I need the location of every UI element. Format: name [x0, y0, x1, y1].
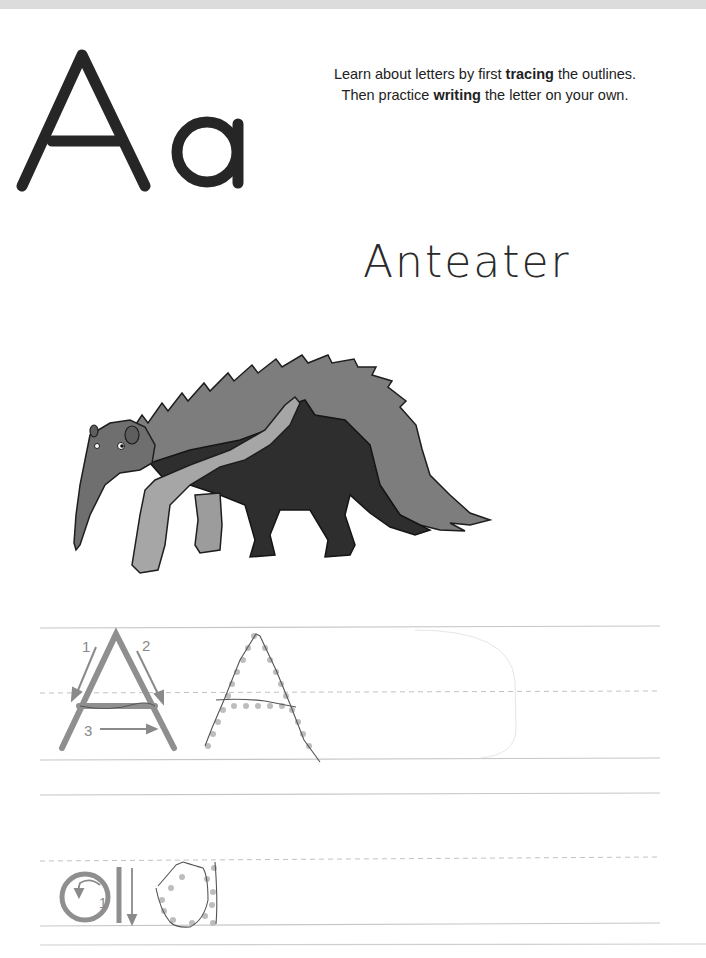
uppercase-a-glyph: [22, 55, 145, 186]
anteater-eye-far: [95, 444, 100, 449]
emphasis-tracing: tracing: [506, 66, 554, 82]
anteater-illustration: [70, 345, 500, 580]
anteater-pupil: [120, 444, 124, 448]
big-letters-aa: [0, 40, 260, 210]
dotted-uppercase-a: [205, 633, 312, 749]
practice-row-1-lines: [40, 626, 660, 795]
instructions-line-1: Learn about letters by first tracing the…: [300, 64, 670, 85]
practice-area: 1 2 3 1: [0, 600, 706, 958]
handwritten-lowercase-a: [156, 862, 217, 927]
stroke-number-2: 2: [142, 637, 150, 654]
page-top-edge: [0, 0, 706, 9]
anteater-ear-back: [90, 425, 98, 437]
emphasis-writing: writing: [433, 87, 481, 103]
practice-row-2-lines: [40, 857, 706, 945]
stroke-direction-arrows: [72, 647, 163, 733]
instructions-text: Learn about letters by first tracing the…: [300, 64, 670, 106]
anteater-hind-pale-leg: [195, 493, 222, 553]
lowercase-stroke-number-1: 1: [99, 895, 107, 911]
stroke-number-3: 3: [84, 722, 92, 739]
handwritten-a-trace: [205, 634, 320, 762]
instructions-line-2: Then practice writing the letter on your…: [300, 85, 670, 106]
anteater-ear: [125, 426, 139, 444]
guide-lowercase-a: [62, 867, 119, 923]
stroke-number-1: 1: [82, 638, 90, 655]
vocab-word: Anteater: [363, 236, 571, 287]
lowercase-a-glyph: [177, 122, 238, 183]
